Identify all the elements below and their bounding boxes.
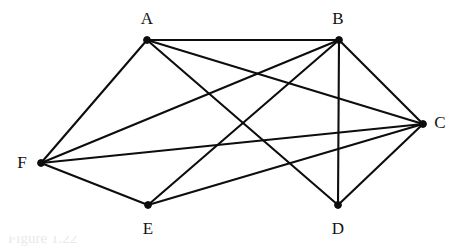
vertex-label-d: D <box>332 220 344 237</box>
vertex-label-a: A <box>141 10 153 27</box>
figure-caption: Figure 1.22 <box>8 236 77 247</box>
figure-caption-strip: Figure 1.22 <box>0 236 459 252</box>
graph-figure: ABCDEF Figure 1.22 <box>0 0 459 252</box>
graph-edge-a-f <box>41 40 147 163</box>
edges-group <box>41 40 423 205</box>
graph-edge-b-f <box>41 40 339 163</box>
vertices-group <box>38 37 427 209</box>
graph-edge-b-d <box>338 40 339 205</box>
graph-vertex-e <box>145 202 152 209</box>
vertex-label-b: B <box>332 10 343 27</box>
vertex-label-c: C <box>434 114 445 131</box>
graph-vertex-a <box>144 37 151 44</box>
graph-vertex-b <box>336 37 343 44</box>
graph-edge-c-f <box>41 124 423 163</box>
graph-vertex-f <box>38 160 45 167</box>
vertex-label-f: F <box>17 154 26 171</box>
vertex-label-e: E <box>143 220 153 237</box>
graph-vertex-d <box>335 202 342 209</box>
graph-canvas <box>0 0 459 252</box>
graph-edge-e-f <box>41 163 148 205</box>
graph-vertex-c <box>420 121 427 128</box>
